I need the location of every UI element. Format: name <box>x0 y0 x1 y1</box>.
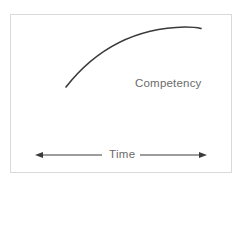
competency-label: Competency <box>135 78 202 90</box>
time-axis-label: Time <box>109 149 135 161</box>
arrow-left-icon <box>35 152 43 158</box>
arrow-right-icon <box>199 152 207 158</box>
